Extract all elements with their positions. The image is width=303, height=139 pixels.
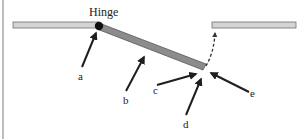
label-d: d (183, 119, 189, 130)
arrow-d (186, 79, 201, 115)
arrow-a (82, 33, 96, 67)
right-fixed-bar (212, 22, 296, 28)
label-e: e (250, 88, 255, 99)
arrow-b (126, 57, 144, 91)
dashed-swing-arrow (206, 33, 215, 66)
arrow-c (157, 74, 196, 85)
tilted-bar (97, 23, 206, 70)
label-b: b (123, 95, 129, 106)
arrow-e (211, 73, 249, 92)
label-a: a (78, 71, 83, 82)
hinge-icon (95, 22, 103, 30)
hinge-label: Hinge (89, 6, 118, 18)
hinge-diagram (0, 0, 303, 139)
left-fixed-bar (13, 22, 99, 28)
label-c: c (153, 85, 158, 96)
